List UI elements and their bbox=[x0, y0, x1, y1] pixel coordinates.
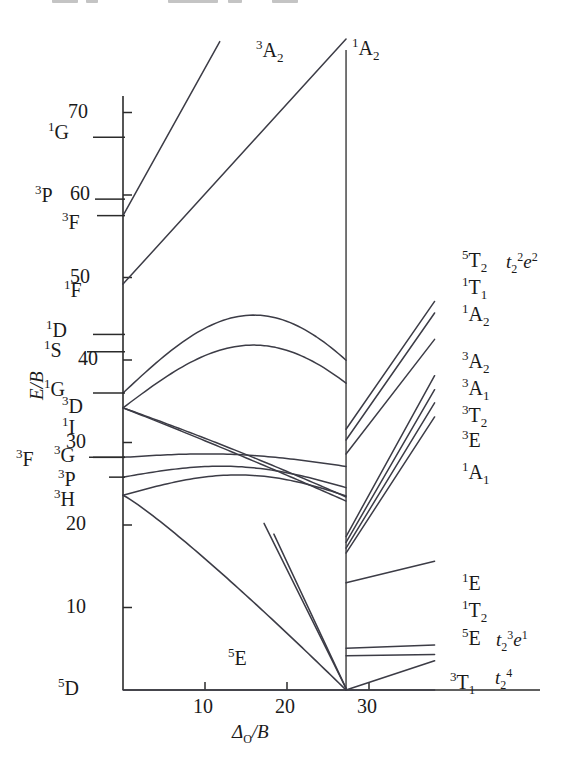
free-ion-term-1S: 1S bbox=[44, 340, 62, 360]
curves-group bbox=[123, 39, 435, 690]
right-label-1A2: 1A2 bbox=[462, 304, 489, 324]
curve-label-3T1: 3T1 bbox=[450, 672, 475, 692]
y-tick-label-70: 70 bbox=[68, 101, 88, 121]
right-label-1T1: 1T1 bbox=[462, 277, 487, 297]
right-label-3E: 3E bbox=[462, 430, 481, 450]
x-tick-label-20: 20 bbox=[275, 696, 295, 716]
x-tick-label-10: 10 bbox=[193, 696, 213, 716]
free-ion-term-3D: 3D bbox=[62, 396, 83, 416]
right-label-3T2: 3T2 bbox=[462, 405, 487, 425]
free-ion-term-1F: 1F bbox=[64, 280, 82, 300]
x-axis-title: ΔO/B bbox=[232, 722, 269, 741]
tanabe-sugano-figure: E/B ΔO/B 706050403020101020301G3P3F1F1D1… bbox=[0, 0, 570, 780]
line-1E-right bbox=[346, 645, 435, 648]
curve-1A2-highspin bbox=[123, 39, 346, 284]
curve-label-3A2: 3A2 bbox=[256, 40, 283, 60]
line-3A2-right bbox=[346, 376, 435, 537]
free-ion-term-1I: 1I bbox=[62, 417, 75, 437]
line-5T2-right bbox=[346, 301, 435, 429]
y-tick-label-60: 60 bbox=[70, 183, 90, 203]
y-tick-label-40: 40 bbox=[78, 348, 98, 368]
x-tick-label-30: 30 bbox=[357, 696, 377, 716]
curve-label-1A2: 1A2 bbox=[352, 38, 379, 58]
config-label-5T2: t22e2 bbox=[506, 252, 538, 271]
right-label-3A2: 3A2 bbox=[462, 351, 489, 371]
curve-3D-arch bbox=[123, 345, 346, 408]
y-tick-label-20: 20 bbox=[66, 513, 86, 533]
right-label-1A1: 1A1 bbox=[462, 462, 489, 482]
curve-label-5E-lower: 5E bbox=[228, 648, 247, 668]
free-ion-term-3H: 3H bbox=[54, 489, 75, 509]
curve-3P-arch bbox=[123, 466, 346, 487]
right-label-1T2: 1T2 bbox=[462, 600, 487, 620]
line-5E-right bbox=[346, 661, 435, 690]
line-1A1-right bbox=[346, 561, 435, 582]
free-ion-term-3G: 3G bbox=[54, 445, 75, 465]
curve-1G-arch bbox=[123, 315, 346, 393]
config-label-5E: t23e1 bbox=[496, 630, 528, 649]
free-ion-term-3F: 3F bbox=[62, 212, 80, 232]
right-label-5T2: 5T2 bbox=[462, 250, 487, 270]
right-label-1E: 1E bbox=[462, 573, 481, 593]
free-ion-term-3F-low: 3F bbox=[16, 449, 34, 469]
line-1T2-right bbox=[346, 655, 435, 656]
line-3T2-right bbox=[346, 403, 435, 548]
curve-3A2-highspin bbox=[123, 42, 220, 216]
right-label-5E: 5E bbox=[462, 628, 481, 648]
free-ion-term-3P: 3P bbox=[35, 185, 53, 205]
config-label-t2-4: t24 bbox=[495, 668, 512, 687]
y-tick-label-10: 10 bbox=[66, 596, 86, 616]
line-3A1-right bbox=[346, 390, 435, 543]
free-ion-term-1G-high: 1G bbox=[48, 122, 69, 142]
curve-3G-flat bbox=[123, 454, 346, 467]
free-ion-term-5D: 5D bbox=[58, 678, 79, 698]
line-1T1-right bbox=[346, 313, 435, 440]
line-converge-b bbox=[264, 523, 346, 688]
right-label-3A1: 3A1 bbox=[462, 378, 489, 398]
free-ion-level-ticks bbox=[87, 137, 125, 477]
